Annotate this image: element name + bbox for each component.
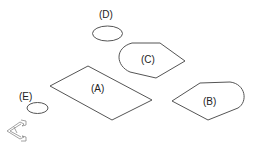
shape-c-label: (C) [141, 55, 155, 65]
shape-e-label: (E) [19, 92, 32, 102]
diagram-canvas [0, 0, 255, 150]
shape-d-label: (D) [99, 10, 113, 20]
shape-e-ellipse [27, 103, 48, 114]
shape-b-label: (B) [203, 97, 216, 107]
shape-d-ellipse [93, 26, 123, 41]
isometric-axes-icon [7, 120, 26, 141]
shape-a-label: (A) [91, 84, 104, 94]
